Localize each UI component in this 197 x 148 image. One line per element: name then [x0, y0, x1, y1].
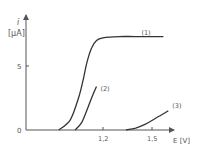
x-tick-label: 1,2 — [98, 135, 108, 143]
x-tick-label: 1,5 — [147, 135, 157, 143]
curve-label-1: (1) — [141, 29, 150, 37]
y-axis-unit: [µA] — [8, 29, 25, 38]
curve-labels: (1)(2)(3) — [100, 29, 181, 110]
tick-labels: 1,21,505 — [17, 63, 157, 143]
y-tick-label: 5 — [17, 63, 21, 71]
curve-1 — [59, 36, 163, 130]
x-axis-label: E [V] — [173, 137, 190, 145]
y-tick-label: 0 — [17, 127, 21, 135]
tick-marks — [26, 66, 152, 130]
curves — [59, 36, 168, 130]
y-axis-symbol: i — [17, 18, 20, 27]
curve-2 — [75, 87, 96, 131]
curve-3 — [126, 111, 168, 130]
current-voltage-chart: i [µA] E [V] 1,21,505 (1)(2)(3) — [0, 0, 197, 148]
curve-label-2: (2) — [100, 85, 109, 93]
curve-label-3: (3) — [172, 102, 181, 110]
